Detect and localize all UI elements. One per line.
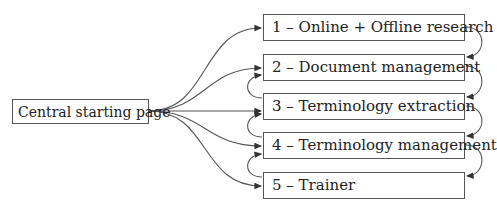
step-3-node: 3 – Terminology extraction	[263, 93, 465, 120]
loop-left-5-4	[248, 154, 262, 177]
step-2-label: 2 – Document management	[272, 60, 480, 75]
step-1-node: 1 – Online + Offline research	[263, 14, 465, 41]
loop-left-4-3	[248, 114, 262, 137]
step-4-label: 4 – Terminology management	[272, 138, 497, 153]
loop-left-3-2	[248, 75, 262, 98]
edge-central-step5	[149, 111, 261, 186]
step-5-node: 5 – Trainer	[263, 172, 465, 199]
central-starting-page-node: Central starting page	[12, 99, 149, 124]
step-5-label: 5 – Trainer	[272, 178, 355, 193]
step-1-label: 1 – Online + Offline research	[272, 20, 493, 35]
step-4-node: 4 – Terminology management	[263, 132, 465, 159]
central-node-label: Central starting page	[18, 105, 171, 119]
step-3-label: 3 – Terminology extraction	[272, 99, 475, 114]
step-2-node: 2 – Document management	[263, 54, 465, 81]
